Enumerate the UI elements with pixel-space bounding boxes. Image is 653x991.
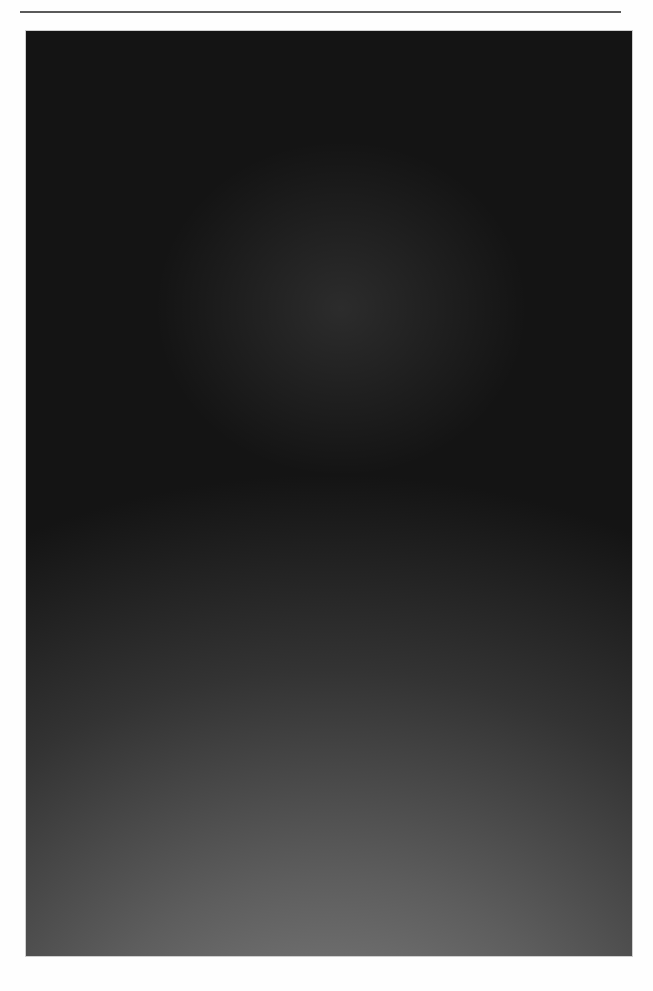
header-rule bbox=[20, 11, 621, 13]
document-page bbox=[0, 0, 653, 991]
plate-fallback-gradient bbox=[26, 31, 632, 956]
running-head bbox=[0, 0, 653, 5]
photographic-plate bbox=[26, 31, 632, 956]
